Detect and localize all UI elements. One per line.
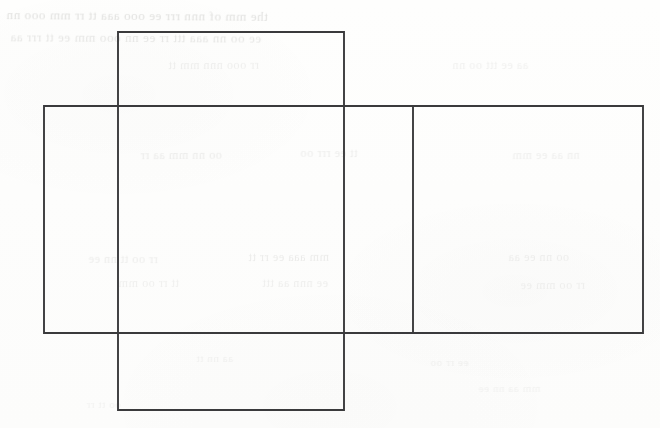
net-figure <box>0 0 660 428</box>
net-face-vertical-strip <box>118 32 344 410</box>
net-figure-svg <box>0 0 660 428</box>
scanned-page: the mm of nnn rrr ee ooo aaa tt rr mm oo… <box>0 0 660 428</box>
